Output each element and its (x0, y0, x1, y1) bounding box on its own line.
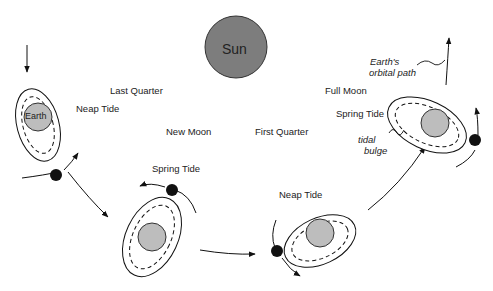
phase-full-moon: Full Moon (325, 85, 367, 96)
earth-label: Earth (25, 111, 47, 121)
tidal-bulge-label-line2: bulge (364, 145, 387, 156)
phase-first-quarter: First Quarter (255, 126, 308, 137)
tide-new-moon: Spring Tide (152, 163, 200, 174)
earth-full-moon (379, 85, 481, 167)
tide-full-moon: Spring Tide (336, 108, 384, 119)
phase-last-quarter: Last Quarter (110, 85, 163, 96)
sun-label: Sun (222, 41, 247, 57)
earth-new-moon (111, 184, 196, 286)
tidal-bulge-label-line1: tidal (358, 134, 375, 145)
earth-last-quarter (8, 84, 78, 181)
tide-first-quarter: Neap Tide (279, 189, 322, 200)
orbital-path-label-line2: orbital path (369, 67, 416, 78)
earth-first-quarter (271, 204, 364, 278)
phase-new-moon: New Moon (166, 126, 211, 137)
orbital-path-label-line1: Earth's (370, 56, 399, 67)
tide-last-quarter: Neap Tide (76, 103, 119, 114)
